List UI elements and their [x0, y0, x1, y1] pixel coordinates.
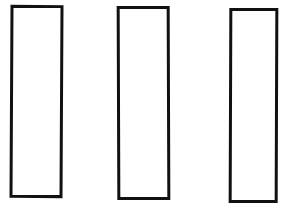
rectangle-2	[117, 6, 171, 200]
diagram-canvas	[0, 0, 289, 207]
rectangle-3	[229, 8, 279, 203]
rectangle-1	[9, 5, 63, 198]
